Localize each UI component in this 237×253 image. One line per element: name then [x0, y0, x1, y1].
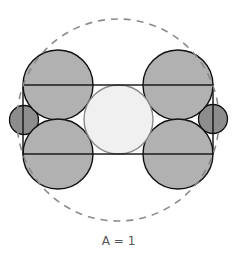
area-label: A = 1 — [0, 234, 237, 248]
center-circle — [84, 85, 153, 154]
circle-packing-diagram — [0, 0, 237, 253]
